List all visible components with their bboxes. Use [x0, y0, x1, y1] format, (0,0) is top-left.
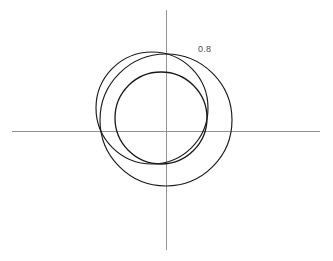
circle-upper-left — [96, 52, 208, 164]
curve-group — [96, 52, 232, 186]
circle-inner — [115, 72, 207, 164]
figure-canvas: 0.8 — [0, 0, 333, 261]
annotation-label-0-8: 0.8 — [198, 44, 211, 54]
diagram-svg — [0, 0, 333, 261]
